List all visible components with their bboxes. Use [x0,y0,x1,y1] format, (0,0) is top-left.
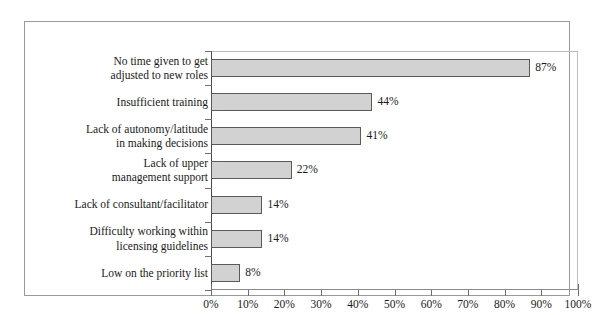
x-axis-tick-label: 50% [384,298,405,310]
x-axis-tick [505,290,506,296]
x-axis-tick-label: 10% [237,298,258,310]
x-axis-tick [395,290,396,296]
bar-row: 22% [211,153,578,187]
bar-row: 41% [211,119,578,153]
x-axis-tick-label: 40% [347,298,368,310]
category-label: Lack of autonomy/latitude in making deci… [53,122,208,151]
bar-value-label: 22% [297,160,318,179]
bar [211,196,262,214]
x-axis-tick [358,290,359,296]
x-axis-tick [541,290,542,296]
figure-frame: No time given to get adjusted to new rol… [24,21,570,296]
bar-row: 14% [211,188,578,222]
bar-value-label: 87% [535,58,556,77]
x-axis-tick-label: 70% [457,298,478,310]
bar [211,264,240,282]
category-label: Lack of upper management support [53,156,208,185]
x-axis-tick-label: 80% [494,298,515,310]
chart-screenshot: No time given to get adjusted to new rol… [0,0,592,315]
bar [211,127,361,145]
category-label: Difficulty working within licensing guid… [53,224,208,253]
category-label: Lack of consultant/facilitator [53,197,208,212]
category-label: Insufficient training [53,95,208,110]
bar-series: 87%44%41%22%14%14%8% [211,51,578,290]
bar [211,161,292,179]
bar-row: 44% [211,85,578,119]
x-axis-tick-label: 100% [565,298,592,310]
x-axis-tick-label: 20% [274,298,295,310]
category-label: Low on the priority list [53,266,208,281]
x-axis-tick [468,290,469,296]
bar-row: 8% [211,256,578,290]
x-axis-tick-label: 90% [531,298,552,310]
bar [211,93,372,111]
x-axis-tick [284,290,285,296]
x-axis-tick [248,290,249,296]
x-axis-tick-label: 60% [421,298,442,310]
bar-value-label: 14% [267,229,288,248]
x-axis-tick [211,284,212,296]
bar-value-label: 14% [267,195,288,214]
x-axis-tick [321,290,322,296]
bar [211,230,262,248]
x-axis-tick-label: 0% [203,298,218,310]
x-axis-tick-label: 30% [311,298,332,310]
bar [211,59,530,77]
bar-value-label: 8% [245,263,260,282]
bar-value-label: 41% [366,126,387,145]
x-axis-tick [578,284,579,296]
bar-row: 87% [211,51,578,85]
bar-row: 14% [211,222,578,256]
bar-value-label: 44% [377,92,398,111]
category-axis-labels: No time given to get adjusted to new rol… [53,51,208,290]
x-axis-tick [431,290,432,296]
category-label: No time given to get adjusted to new rol… [53,54,208,83]
